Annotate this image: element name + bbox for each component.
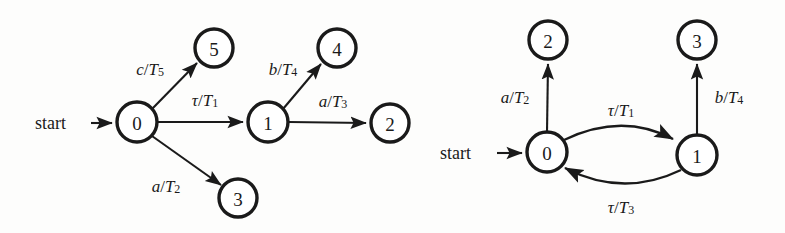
start-label-left: start (35, 113, 66, 133)
node-label: 2 (385, 114, 395, 135)
diagram-canvas: start c/T5 τ/T1 a/T2 b/T4 (0, 0, 785, 233)
edge-right-1-to-3[interactable]: b/T4 (697, 64, 743, 135)
edge-label-right-a-T2: a/T2 (501, 88, 530, 108)
edge-label-left-b-T4: b/T4 (269, 60, 298, 80)
node-label: 3 (233, 189, 243, 210)
diagram-left: start c/T5 τ/T1 a/T2 b/T4 (35, 29, 409, 217)
edge-left-0-to-3[interactable]: a/T2 (152, 136, 221, 196)
start-label-right: start (440, 143, 471, 163)
edge-label-right-tau-T3: τ/T3 (608, 198, 634, 218)
node-label: 1 (692, 146, 702, 167)
edge-label-left-c-T5: c/T5 (136, 60, 164, 80)
edge-right-0-to-1-upper[interactable]: τ/T1 (564, 101, 673, 141)
edge-line (547, 64, 548, 132)
state-diagram-figure: start c/T5 τ/T1 a/T2 b/T4 (0, 0, 785, 233)
edge-label-right-b-T4: b/T4 (715, 88, 744, 108)
node-label: 1 (263, 113, 273, 134)
edge-line (289, 122, 366, 123)
node-label: 0 (132, 113, 142, 134)
node-left-1[interactable]: 1 (248, 102, 288, 142)
edge-right-1-to-0-lower[interactable]: τ/T3 (565, 168, 681, 217)
node-left-0[interactable]: 0 (117, 102, 157, 142)
edge-left-0-to-5[interactable]: c/T5 (136, 60, 197, 110)
edge-left-1-to-4[interactable]: b/T4 (269, 60, 321, 110)
node-label: 0 (542, 143, 552, 164)
node-label: 3 (692, 31, 702, 52)
start-arrow-left: start (35, 113, 112, 133)
edge-right-0-to-2[interactable]: a/T2 (501, 64, 548, 132)
edge-label-left-a-T3: a/T3 (319, 92, 348, 112)
node-left-4[interactable]: 4 (318, 29, 356, 67)
edge-curve (565, 168, 681, 184)
diagram-right: start a/T2 b/T4 τ/T1 τ/T3 (440, 21, 743, 217)
edge-label-right-tau-T1: τ/T1 (608, 101, 634, 121)
node-right-0[interactable]: 0 (527, 132, 567, 172)
node-left-2[interactable]: 2 (371, 104, 409, 142)
edge-left-0-to-1[interactable]: τ/T1 (158, 91, 243, 123)
edge-curve (564, 126, 673, 140)
edge-label-left-tau-T1: τ/T1 (192, 91, 218, 111)
edge-label-left-a-T2: a/T2 (152, 177, 181, 197)
node-left-3[interactable]: 3 (219, 179, 257, 217)
edge-left-1-to-2[interactable]: a/T3 (289, 92, 366, 124)
node-right-3[interactable]: 3 (678, 21, 716, 59)
node-label: 4 (332, 39, 342, 60)
node-right-2[interactable]: 2 (529, 21, 567, 59)
node-label: 5 (209, 39, 219, 60)
start-arrow-right: start (440, 143, 522, 163)
node-left-5[interactable]: 5 (195, 29, 233, 67)
node-right-1[interactable]: 1 (677, 135, 717, 175)
node-label: 2 (543, 31, 553, 52)
